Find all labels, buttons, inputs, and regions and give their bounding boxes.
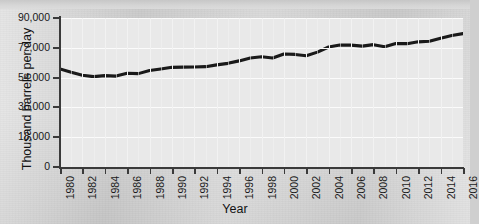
chart-title (0, 0, 470, 3)
gridline-vertical (105, 18, 106, 167)
x-axis-tick-label: 2006 (356, 176, 367, 199)
x-axis-tick-label: 1986 (132, 176, 143, 199)
gridline-vertical (239, 18, 240, 167)
x-axis-tick (105, 168, 107, 174)
x-axis-tick-label: 1992 (199, 176, 210, 199)
gridline-vertical (373, 18, 374, 167)
x-axis-tick-label: 2014 (446, 176, 457, 199)
x-axis-tick-label: 2008 (378, 176, 389, 199)
x-axis-tick-label: 1990 (177, 176, 188, 199)
gridline-vertical (284, 18, 285, 167)
gridline-vertical (71, 18, 72, 167)
x-axis-tick-label: 2000 (289, 176, 300, 199)
gridline-vertical (228, 18, 229, 167)
x-axis-tick-label: 1984 (110, 176, 121, 199)
gridline-vertical (452, 18, 453, 167)
gridline-vertical (385, 18, 386, 167)
x-axis-tick-label: 1998 (267, 176, 278, 199)
gridline-vertical (429, 18, 430, 167)
plot-area (60, 18, 463, 167)
gridline-vertical (441, 18, 442, 167)
x-axis-tick-label: 2016 (468, 176, 479, 199)
gridline-vertical (396, 18, 397, 167)
x-axis-tick (262, 168, 264, 174)
gridline-vertical (206, 18, 207, 167)
gridline-vertical (362, 18, 363, 167)
gridline-vertical (94, 18, 95, 167)
x-axis-tick (60, 168, 62, 174)
x-axis-tick (306, 168, 308, 174)
y-axis-tick (53, 17, 60, 19)
gridline-vertical (194, 18, 195, 167)
gridline-vertical (138, 18, 139, 167)
gridline-vertical (217, 18, 218, 167)
y-axis-tick (53, 77, 60, 79)
y-axis-line (59, 16, 61, 169)
x-axis-tick-label: 1982 (87, 176, 98, 199)
x-axis-tick-label: 1996 (244, 176, 255, 199)
x-axis-tick (284, 168, 286, 174)
x-axis-tick-label: 2002 (311, 176, 322, 199)
y-axis-tick (53, 106, 60, 108)
x-axis-tick-label: 2012 (423, 176, 434, 199)
gridline-vertical (127, 18, 128, 167)
x-axis-tick (172, 168, 174, 174)
x-axis-tick-label: 2010 (401, 176, 412, 199)
x-axis-tick (82, 168, 84, 174)
x-axis-tick (194, 168, 196, 174)
y-axis-title: Thousand barrels per day (20, 14, 34, 184)
gridline-vertical (172, 18, 173, 167)
x-axis-tick (396, 168, 398, 174)
gridline-vertical (418, 18, 419, 167)
x-axis-tick (351, 168, 353, 174)
x-axis-tick-label: 1980 (65, 176, 76, 199)
gridline-vertical (351, 18, 352, 167)
y-axis-tick (53, 136, 60, 138)
x-axis-tick (127, 168, 129, 174)
y-axis-tick (53, 166, 60, 168)
gridline-vertical (329, 18, 330, 167)
gridline-vertical (250, 18, 251, 167)
gridline-vertical (407, 18, 408, 167)
gridline-vertical (295, 18, 296, 167)
gridline-vertical (116, 18, 117, 167)
gridline-vertical (161, 18, 162, 167)
x-axis-tick (441, 168, 443, 174)
x-axis-title: Year (0, 202, 470, 216)
x-axis-tick (418, 168, 420, 174)
x-axis-tick (373, 168, 375, 174)
x-axis-tick-label: 1994 (222, 176, 233, 199)
x-axis-tick-label: 1988 (155, 176, 166, 199)
x-axis-tick (463, 168, 465, 174)
x-axis-tick (329, 168, 331, 174)
gridline-vertical (82, 18, 83, 167)
x-axis-tick (217, 168, 219, 174)
gridline-vertical (183, 18, 184, 167)
x-axis-tick (239, 168, 241, 174)
y-axis-tick (53, 47, 60, 49)
x-axis-tick-label: 2004 (334, 176, 345, 199)
x-axis-tick (150, 168, 152, 174)
gridline-vertical (273, 18, 274, 167)
gridline-vertical (262, 18, 263, 167)
gridline-vertical (317, 18, 318, 167)
gridline-vertical (340, 18, 341, 167)
gridline-vertical (306, 18, 307, 167)
gridline-vertical (150, 18, 151, 167)
